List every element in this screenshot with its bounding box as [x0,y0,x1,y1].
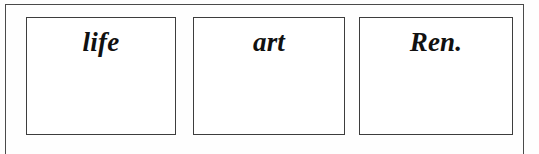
term-box-2: art [193,17,345,135]
term-box-1: life [26,17,176,135]
term-box-1-label: life [27,25,175,59]
term-box-2-label: art [194,25,344,59]
cell-group: life art Ren. [0,0,539,154]
term-box-3-label: Ren. [360,25,512,59]
term-box-3: Ren. [359,17,513,135]
figure-canvas: life art Ren. [0,0,539,154]
